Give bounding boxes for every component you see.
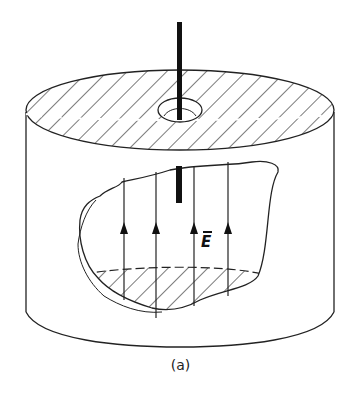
- overbar: [203, 231, 212, 233]
- cylinder-capacitor-diagram: [0, 0, 361, 395]
- cutaway-window: [78, 161, 278, 330]
- center-rod: [177, 22, 182, 120]
- figure-caption: (a): [0, 357, 361, 373]
- inner-rod: [176, 166, 182, 203]
- field-label-e: E: [201, 233, 211, 251]
